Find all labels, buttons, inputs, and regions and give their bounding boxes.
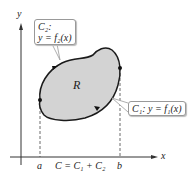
y-axis-arrow-icon bbox=[19, 23, 23, 30]
y-axis-label: y bbox=[17, 8, 21, 19]
point-b bbox=[118, 66, 122, 70]
x-axis-label: x bbox=[161, 150, 165, 161]
tick-label-a: a bbox=[37, 160, 42, 171]
callout-c2: C₂: y = f₂(x) bbox=[34, 19, 76, 45]
point-a bbox=[38, 98, 42, 102]
callout-c2-title: C₂: bbox=[38, 21, 72, 32]
diagram-canvas bbox=[0, 0, 196, 173]
callout-c2-pointer bbox=[52, 44, 60, 60]
callout-c1: C₁: y = f₁(x) bbox=[128, 101, 186, 116]
caption-c: C = C₁ + C₂ bbox=[55, 160, 105, 171]
x-axis-arrow-icon bbox=[151, 155, 158, 159]
region-label: R bbox=[73, 78, 80, 93]
tick-label-b: b bbox=[117, 160, 122, 171]
callout-c2-equation: y = f₂(x) bbox=[38, 32, 72, 43]
